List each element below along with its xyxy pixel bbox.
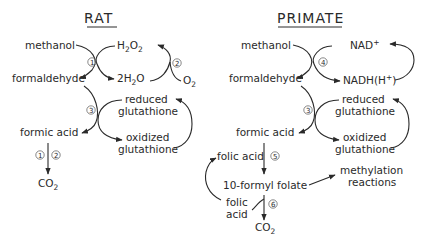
primate-methylation-2: reactions [348, 176, 396, 188]
rat-enzyme-2b-label: 2 [54, 152, 58, 160]
rat-enzyme-1-label: 1 [90, 59, 94, 67]
rat-enzyme-1b-label: 1 [38, 152, 42, 160]
primate-panel: PRIMATE methanol formaldehyde NAD+ NADH(… [206, 10, 414, 236]
rat-oxidized-glutathione-1: oxidized [126, 131, 169, 143]
primate-title: PRIMATE [277, 10, 344, 26]
primate-oxidized-glutathione-2: glutathione [335, 143, 395, 155]
rat-co2: CO2 [38, 177, 59, 192]
primate-nadh: NADH(H+) [343, 73, 396, 86]
rat-oxidized-glutathione-2: glutathione [118, 143, 178, 155]
primate-reduced-glutathione-1: reduced [342, 93, 385, 105]
primate-methylation-1: methylation [340, 164, 403, 176]
primate-folic-acid-out-2: acid [226, 208, 248, 220]
rat-arrow-h2o2-h2o [96, 46, 115, 79]
primate-enzyme-4-label: 4 [321, 59, 326, 67]
primate-enzyme-5-label: 5 [273, 153, 277, 161]
rat-enzyme-2-label: 2 [175, 60, 179, 68]
rat-formic-acid: formic acid [20, 126, 78, 138]
rat-reduced-glutathione-2: glutathione [118, 105, 178, 117]
primate-folic-acid-out-1: folic [226, 196, 248, 208]
rat-arrow-catalase [150, 45, 170, 81]
rat-methanol: methanol [25, 39, 75, 51]
rat-o2: O2 [183, 74, 196, 89]
rat-formaldehyde: formaldehyde [12, 72, 85, 84]
primate-10-formyl-folate: 10-formyl folate [223, 179, 307, 191]
primate-reduced-glutathione-2: glutathione [335, 105, 395, 117]
primate-co2: CO2 [255, 221, 276, 236]
rat-reduced-glutathione-1: reduced [125, 93, 168, 105]
rat-h2o2: H2O2 [117, 39, 143, 54]
rat-panel: RAT methanol formaldehyde formic acid CO… [12, 10, 196, 192]
primate-folic-acid-in: folic acid [217, 150, 264, 162]
primate-enzyme-6-label: 6 [271, 201, 276, 209]
primate-formaldehyde: formaldehyde [229, 72, 302, 84]
rat-2h2o: 2H2O [117, 72, 145, 87]
primate-enzyme-3-label: 3 [306, 107, 310, 115]
rat-title: RAT [84, 10, 113, 26]
primate-arrow-folic-recycle [206, 158, 221, 200]
primate-arrow-methylation [309, 175, 335, 185]
methanol-metabolism-diagram: RAT methanol formaldehyde formic acid CO… [0, 0, 430, 241]
primate-branch-folic-acid [252, 199, 264, 210]
primate-nad: NAD+ [350, 38, 379, 51]
primate-formic-acid: formic acid [236, 126, 294, 138]
rat-enzyme-3-label: 3 [89, 107, 93, 115]
primate-methanol: methanol [241, 39, 291, 51]
primate-oxidized-glutathione-1: oxidized [343, 131, 386, 143]
